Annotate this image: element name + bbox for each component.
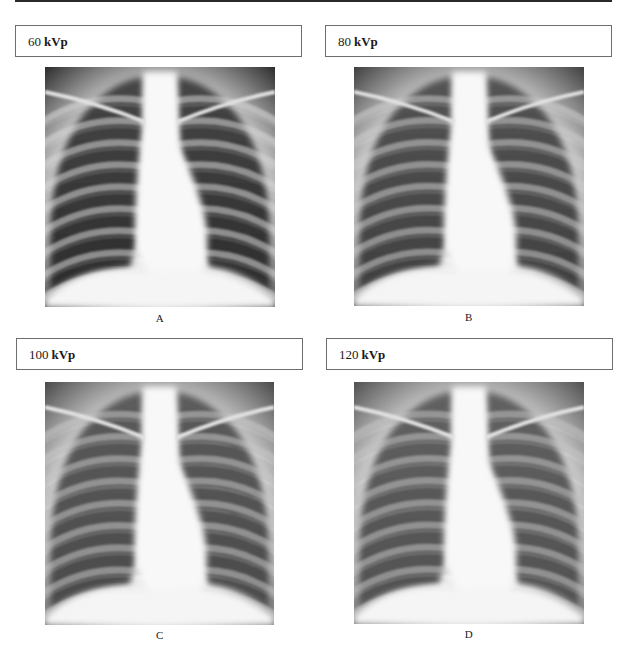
xray-svg xyxy=(354,382,584,624)
kvp-value: 60 xyxy=(28,34,41,49)
chest-xray-image-d xyxy=(354,382,584,624)
chest-xray-image-b xyxy=(354,67,584,306)
kvp-label: 100kVp xyxy=(29,347,75,362)
panel-caption-d: D xyxy=(354,628,584,640)
top-rule xyxy=(15,0,612,2)
xray-svg xyxy=(45,67,275,307)
kvp-label: 60kVp xyxy=(28,34,68,49)
panel-caption-a: A xyxy=(45,312,275,324)
kvp-unit: kVp xyxy=(52,347,76,362)
kvp-value: 120 xyxy=(339,347,359,362)
kvp-label: 120kVp xyxy=(339,347,385,362)
kvp-value: 80 xyxy=(338,34,351,49)
kvp-unit: kVp xyxy=(362,347,386,362)
chest-xray-image-c xyxy=(45,382,274,625)
xray-svg xyxy=(45,382,274,625)
kvp-label-box: 80kVp xyxy=(325,25,612,57)
kvp-unit: kVp xyxy=(44,34,68,49)
kvp-label-box: 120kVp xyxy=(326,338,613,370)
chest-xray-image-a xyxy=(45,67,275,307)
panel-caption-c: C xyxy=(45,629,275,641)
kvp-value: 100 xyxy=(29,347,49,362)
kvp-label-box: 100kVp xyxy=(16,338,303,370)
xray-svg xyxy=(354,67,584,306)
kvp-label-box: 60kVp xyxy=(15,25,302,57)
kvp-label: 80kVp xyxy=(338,34,378,49)
kvp-unit: kVp xyxy=(354,34,378,49)
panel-caption-b: B xyxy=(354,311,584,323)
